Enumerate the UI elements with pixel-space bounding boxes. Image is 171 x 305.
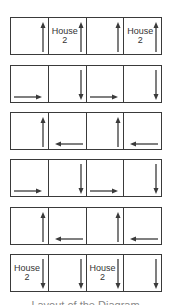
arrow-right-icon	[90, 94, 118, 100]
diagram-row	[10, 112, 162, 150]
arrow-left-icon	[130, 236, 158, 242]
diagram-row: House2House2	[10, 17, 162, 55]
arrow-down-icon	[153, 259, 159, 289]
grid-cell	[49, 113, 87, 149]
diagram-row	[10, 207, 162, 245]
house-label: House2	[51, 27, 79, 45]
arrow-up-icon	[153, 22, 159, 52]
arrow-right-icon	[14, 94, 42, 100]
grid-cell	[49, 255, 87, 291]
arrow-down-icon	[78, 164, 84, 194]
grid-cell	[124, 160, 161, 196]
grid-cell	[124, 208, 161, 244]
house-cell: House2	[124, 18, 161, 54]
arrow-right-icon	[90, 188, 118, 194]
arrow-up-icon	[78, 22, 84, 52]
arrow-up-icon	[115, 22, 121, 52]
arrow-left-icon	[130, 141, 158, 147]
diagram-caption: Layout of the Diagram	[0, 298, 171, 305]
grid-cell	[87, 113, 125, 149]
arrow-down-icon	[78, 70, 84, 100]
arrow-down-icon	[115, 259, 121, 289]
grid-cell	[49, 160, 87, 196]
diagram-row: House2House2	[10, 254, 162, 292]
arrow-up-icon	[40, 117, 46, 147]
grid-cell	[11, 66, 49, 102]
grid-cell	[11, 208, 49, 244]
grid-cell	[87, 160, 125, 196]
grid-cell	[87, 18, 125, 54]
arrow-up-icon	[115, 117, 121, 147]
arrow-right-icon	[14, 188, 42, 194]
house-cell: House2	[11, 255, 49, 291]
grid-cell	[124, 113, 161, 149]
grid-cell	[11, 18, 49, 54]
grid-cell	[11, 113, 49, 149]
grid-cell	[87, 66, 125, 102]
arrow-left-icon	[55, 141, 83, 147]
arrow-up-icon	[40, 212, 46, 242]
grid-cell	[11, 160, 49, 196]
arrow-down-icon	[40, 259, 46, 289]
arrow-left-icon	[55, 236, 83, 242]
house-cell: House2	[49, 18, 87, 54]
arrow-up-icon	[40, 22, 46, 52]
diagram-row	[10, 159, 162, 197]
arrow-down-icon	[78, 259, 84, 289]
grid-cell	[49, 66, 87, 102]
diagram-row	[10, 65, 162, 103]
arrow-down-icon	[153, 164, 159, 194]
grid-cell	[124, 66, 161, 102]
house-label: House2	[89, 264, 117, 282]
grid-cell	[124, 255, 161, 291]
arrow-up-icon	[115, 212, 121, 242]
house-label: House2	[126, 27, 154, 45]
grid-cell	[87, 208, 125, 244]
house-label: House2	[13, 264, 41, 282]
house-cell: House2	[87, 255, 125, 291]
arrow-down-icon	[153, 70, 159, 100]
grid-cell	[49, 208, 87, 244]
